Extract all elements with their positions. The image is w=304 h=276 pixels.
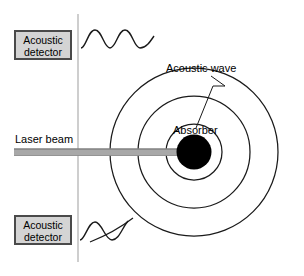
acoustic-detector-top[interactable]: Acoustic detector [14, 30, 72, 60]
detector-bottom-label-line2: detector [16, 232, 70, 244]
acoustic-detector-bottom[interactable]: Acoustic detector [14, 215, 72, 245]
absorber-disc [177, 135, 212, 170]
acoustic-signal-wave-top [81, 30, 154, 48]
detector-top-label-line2: detector [16, 47, 70, 59]
acoustic-wave-arc-lower-left [90, 218, 133, 242]
acoustic-wave-leader-line [196, 76, 225, 128]
detector-bottom-label-line1: Acoustic [23, 219, 63, 231]
laser-beam-label: Laser beam [15, 133, 73, 145]
acoustic-wave-label: Acoustic wave [166, 62, 236, 74]
absorber-label: Absorber [173, 124, 218, 136]
detector-top-label-line1: Acoustic [23, 34, 63, 46]
photoacoustic-diagram: Acoustic detector Acoustic detector Lase… [0, 0, 304, 276]
acoustic-signal-wave-bottom [80, 221, 128, 240]
